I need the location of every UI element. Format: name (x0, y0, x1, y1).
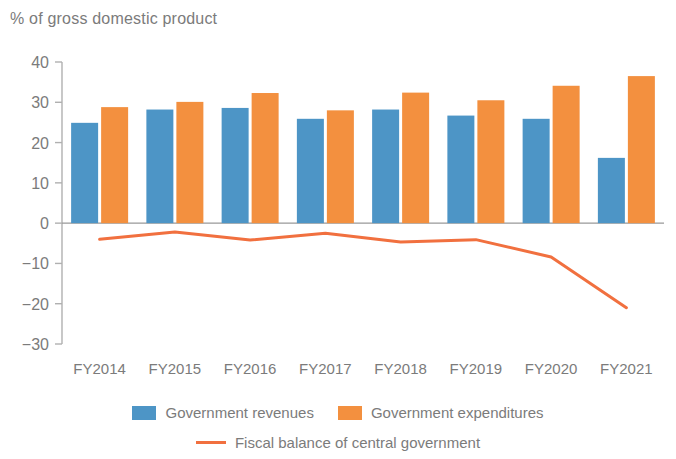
bar (447, 116, 474, 224)
x-tick-label: FY2018 (374, 360, 427, 377)
x-tick-label: FY2019 (450, 360, 503, 377)
legend-item-fiscal-balance[interactable]: Fiscal balance of central government (196, 434, 480, 451)
bar (71, 123, 98, 223)
x-axis: FY2014FY2015FY2016FY2017FY2018FY2019FY20… (73, 360, 652, 377)
y-tick-label: 30 (31, 94, 49, 111)
x-tick-label: FY2017 (299, 360, 352, 377)
x-tick-label: FY2021 (600, 360, 653, 377)
y-axis: 403020100−10−20−30 (22, 54, 62, 353)
bar (598, 158, 625, 223)
bar (327, 110, 354, 223)
bar (146, 110, 173, 224)
x-tick-label: FY2015 (149, 360, 202, 377)
y-tick-label: 40 (31, 54, 49, 71)
legend-label-expenditures: Government expenditures (371, 404, 544, 421)
bar-series-group (71, 76, 655, 223)
legend-label-revenues: Government revenues (165, 404, 313, 421)
bar (553, 86, 580, 223)
legend-row-primary: Government revenues Government expenditu… (0, 404, 676, 421)
chart-container: % of gross domestic product 403020100−10… (0, 0, 676, 459)
legend-item-expenditures[interactable]: Government expenditures (338, 404, 544, 421)
bar (222, 108, 249, 223)
bar (297, 119, 324, 223)
bar (628, 76, 655, 223)
chart-plot-area: 403020100−10−20−30 FY2014FY2015FY2016FY2… (0, 0, 676, 459)
fiscal-balance-line (100, 232, 627, 308)
legend-swatch-revenues (132, 406, 156, 420)
bar (176, 102, 203, 223)
y-tick-label: −10 (22, 255, 49, 272)
y-tick-label: −20 (22, 296, 49, 313)
y-tick-label: 20 (31, 135, 49, 152)
y-tick-label: 0 (40, 215, 49, 232)
y-tick-label: 10 (31, 175, 49, 192)
line-series-group (100, 232, 627, 308)
y-tick-label: −30 (22, 336, 49, 353)
bar (372, 110, 399, 224)
bar (101, 107, 128, 223)
bar (252, 93, 279, 223)
legend-swatch-expenditures (338, 406, 362, 420)
legend-line-fiscal-balance (196, 441, 226, 444)
legend-row-secondary: Fiscal balance of central government (0, 434, 676, 451)
legend-item-revenues[interactable]: Government revenues (132, 404, 313, 421)
bar (477, 100, 504, 223)
bar (523, 119, 550, 223)
x-tick-label: FY2016 (224, 360, 277, 377)
legend-label-fiscal-balance: Fiscal balance of central government (235, 434, 480, 451)
x-tick-label: FY2014 (73, 360, 126, 377)
bar (402, 93, 429, 224)
x-tick-label: FY2020 (525, 360, 578, 377)
